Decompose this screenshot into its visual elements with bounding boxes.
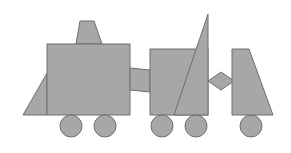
wheel-2 — [94, 115, 116, 137]
wheel-5 — [240, 115, 262, 137]
wheel-1 — [60, 115, 82, 137]
wheel-4 — [185, 115, 207, 137]
train-diagram — [0, 0, 291, 153]
wheel-3 — [151, 115, 173, 137]
connector-shape — [130, 68, 150, 92]
engine-body-shape — [47, 44, 130, 115]
